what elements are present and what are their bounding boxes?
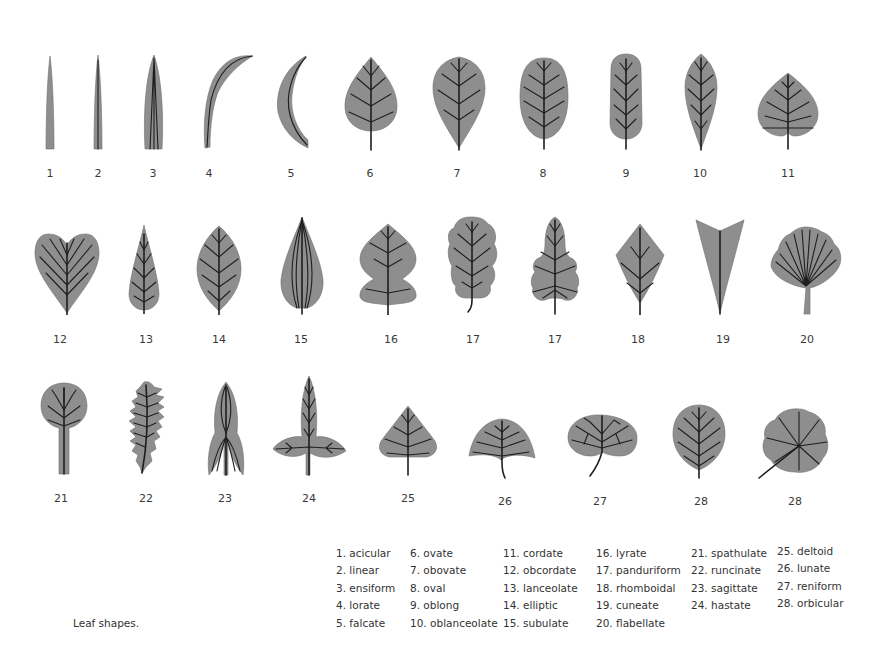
legend-item: 5. falcate [336, 615, 395, 632]
leaf-label: 17 [535, 333, 575, 346]
legend-item: 9. oblong [410, 597, 498, 614]
legend-column-1: 1. acicular 2. linear 3. ensiform 4. lor… [336, 545, 395, 632]
legend-item: 13. lanceolate [503, 580, 578, 597]
leaf-label: 18 [618, 333, 658, 346]
leaf-oval-icon [519, 57, 569, 151]
legend-item: 19. cuneate [596, 597, 681, 614]
legend-item: 18. rhomboidal [596, 580, 681, 597]
leaf-label: 28 [681, 495, 721, 508]
leaf-label: 19 [703, 333, 743, 346]
leaf-hastate-icon [272, 375, 348, 477]
leaf-panduriform-2-icon [529, 216, 581, 316]
legend-item: 16. lyrate [596, 545, 681, 562]
leaf-label: 22 [126, 492, 166, 505]
leaf-label: 4 [189, 167, 229, 180]
legend-column-3: 11. cordate 12. obcordate 13. lanceolate… [503, 545, 578, 632]
leaf-label: 8 [523, 167, 563, 180]
leaf-spathulate-icon [40, 382, 88, 478]
leaf-elliptic-icon [196, 225, 242, 315]
leaf-label: 28 [775, 495, 815, 508]
leaf-lanceolate-icon [128, 224, 160, 314]
leaf-rhomboidal-icon [615, 223, 665, 315]
leaf-label: 14 [199, 333, 239, 346]
leaf-label: 5 [271, 167, 311, 180]
leaf-panduriform-icon [446, 216, 498, 316]
legend-item: 1. acicular [336, 545, 395, 562]
leaf-label: 2 [78, 167, 118, 180]
leaf-subulate-icon [279, 216, 325, 316]
legend-item: 17. panduriform [596, 562, 681, 579]
leaf-label: 9 [606, 167, 646, 180]
leaf-cordate-icon [757, 72, 819, 150]
leaf-label: 16 [371, 333, 411, 346]
legend-column-6: 25. deltoid 26. lunate 27. reniform 28. … [777, 543, 843, 613]
leaf-orbicular-icon [672, 404, 726, 480]
legend-item: 2. linear [336, 562, 395, 579]
legend-item: 4. lorate [336, 597, 395, 614]
leaf-label: 26 [485, 495, 525, 508]
leaf-label: 10 [680, 167, 720, 180]
legend-item: 11. cordate [503, 545, 578, 562]
legend-item: 14. elliptic [503, 597, 578, 614]
leaf-oblong-icon [609, 53, 643, 151]
leaf-runcinate-icon [128, 381, 166, 475]
leaf-label: 15 [281, 333, 321, 346]
legend-item: 25. deltoid [777, 543, 843, 560]
legend-column-2: 6. ovate 7. obovate 8. oval 9. oblong 10… [410, 545, 498, 632]
legend-item: 28. orbicular [777, 595, 843, 612]
leaf-cuneate-icon [695, 219, 745, 315]
leaf-label: 3 [133, 167, 173, 180]
legend-item: 10. oblanceolate [410, 615, 498, 632]
leaf-orbicular-2-icon [757, 408, 831, 480]
legend-item: 12. obcordate [503, 562, 578, 579]
figure-caption: Leaf shapes. [73, 617, 139, 629]
leaf-lunate-icon [467, 418, 537, 480]
leaf-label: 1 [30, 167, 70, 180]
leaf-label: 17 [453, 333, 493, 346]
legend-item: 20. flabellate [596, 615, 681, 632]
leaf-lyrate-icon [358, 223, 418, 315]
legend-item: 8. oval [410, 580, 498, 597]
leaf-obcordate-icon [34, 233, 100, 315]
leaf-label: 25 [388, 492, 428, 505]
leaf-label: 20 [787, 333, 827, 346]
legend-column-4: 16. lyrate 17. panduriform 18. rhomboida… [596, 545, 681, 632]
leaf-ovate-icon [343, 56, 399, 152]
legend-item: 22. runcinate [691, 562, 767, 579]
leaf-label: 7 [437, 167, 477, 180]
legend-item: 24. hastate [691, 597, 767, 614]
leaf-label: 27 [580, 495, 620, 508]
legend-item: 27. reniform [777, 578, 843, 595]
leaf-label: 21 [41, 492, 81, 505]
leaf-deltoid-icon [377, 405, 439, 477]
leaf-label: 12 [40, 333, 80, 346]
legend-item: 7. obovate [410, 562, 498, 579]
leaf-oblanceolate-icon [684, 53, 718, 151]
leaf-label: 11 [768, 167, 808, 180]
leaf-label: 6 [350, 167, 390, 180]
legend-item: 21. spathulate [691, 545, 767, 562]
legend-item: 23. sagittate [691, 580, 767, 597]
legend-item: 3. ensiform [336, 580, 395, 597]
leaf-label: 24 [289, 492, 329, 505]
leaf-obovate-icon [432, 56, 486, 152]
leaf-label: 13 [126, 333, 166, 346]
leaf-reniform-icon [566, 414, 638, 480]
legend-item: 6. ovate [410, 545, 498, 562]
leaf-label: 23 [205, 492, 245, 505]
legend-item: 15. subulate [503, 615, 578, 632]
leaf-flabellate-icon [770, 226, 842, 316]
legend-column-5: 21. spathulate 22. runcinate 23. sagitta… [691, 545, 767, 615]
leaf-sagittate-icon [207, 381, 245, 477]
legend-item: 26. lunate [777, 560, 843, 577]
